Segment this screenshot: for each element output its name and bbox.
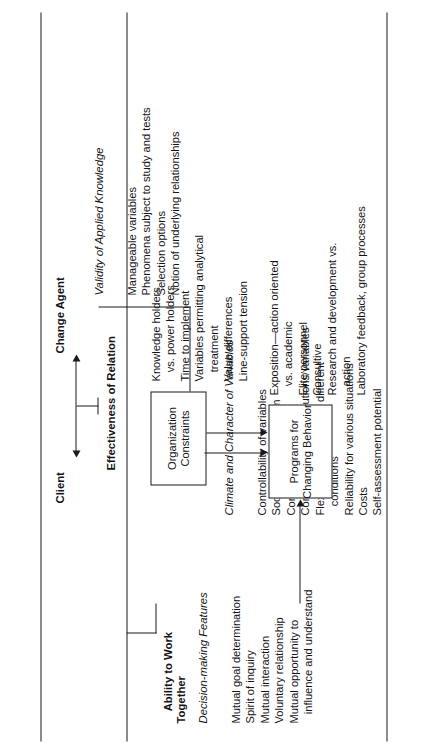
heading-decision-making-features: Decision-making Features	[196, 592, 209, 723]
bracket-label-ability-text: Ability to Work Together	[161, 631, 186, 723]
figure-canvas: Client Change Agent Effectiveness of Rel…	[0, 0, 427, 753]
relation-tick-cap	[97, 397, 98, 414]
figure-bottom-rule	[386, 12, 387, 741]
ability-to-programs-connector-h	[299, 505, 300, 603]
heading-validity-of-applied-knowledge: Validity of Applied Knowledge	[92, 147, 105, 295]
ability-to-programs-arrowhead	[296, 499, 304, 506]
box-programs-label: Programs for Changing Behavior	[287, 404, 314, 498]
axis-label-change-agent: Change Agent	[53, 277, 66, 353]
box-organization-constraints[interactable]: Organization Constraints	[150, 391, 206, 485]
ability-bracket-horizontal	[155, 603, 156, 633]
axis-label-client: Client	[53, 472, 66, 503]
figure-top-rule	[40, 12, 41, 741]
axis-arrow-to-client	[72, 450, 80, 457]
list-organization-constraints: Knowledge holders vs. power holders Time…	[148, 234, 249, 381]
relation-tick	[76, 405, 98, 406]
list-programs-for-changing-behavior: Exposition—action oriented vs. academic …	[266, 206, 367, 395]
ability-bracket-vertical	[126, 632, 156, 633]
bracket-label-ability-to-work-together: Ability to Work Together	[148, 631, 201, 723]
box-organization-constraints-label: Organization Constraints	[165, 407, 192, 470]
list-decision-making-features: Mutual goal determination Spirit of inqu…	[228, 589, 315, 723]
axis-arrow-to-change-agent	[72, 354, 80, 361]
org-constraints-connector-down	[204, 452, 263, 453]
axis-label-effectiveness-of-relation: Effectiveness of Relation	[104, 336, 117, 470]
box-programs-for-changing-behavior[interactable]: Programs for Changing Behavior	[268, 404, 332, 498]
org-constraints-connector-arrowhead	[260, 449, 267, 457]
